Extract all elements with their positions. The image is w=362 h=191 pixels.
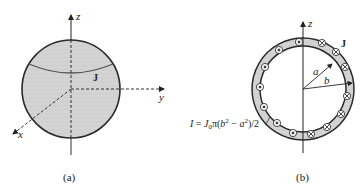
radius-a-label: a [313,65,319,77]
z-axis-label-b: z [307,17,313,29]
dot-in-circle-icon [289,129,296,136]
current-density-label: J [93,72,98,83]
y-axis-label: y [158,91,164,103]
z-axis-label: z [75,10,81,22]
dot-in-circle-icon [295,38,302,45]
cross-in-circle-icon [343,92,350,99]
caption-b: (b) [296,171,309,184]
formula-tail: )/2 [248,118,259,130]
current-density-label-b: J [341,38,346,49]
cross-in-circle-icon [337,110,344,117]
caption-a: (a) [63,171,76,184]
figure-b-ring-diagram: z a b J [189,17,354,184]
dot-in-circle-icon [260,103,267,110]
radius-b-label: b [324,74,330,86]
formula-minus: − [229,118,240,129]
formula-eq: = [193,118,204,129]
dot-in-circle-icon [273,119,280,126]
cross-in-circle-icon [341,63,348,70]
figure-a-sphere-diagram: z y x J (a) [13,10,164,184]
cross-in-circle-icon [318,39,325,46]
total-current-formula: I = J0π(b2 − a2)/2 [189,117,259,131]
dot-in-circle-icon [275,46,282,53]
dot-in-circle-icon [261,63,268,70]
figure-canvas: z y x J (a) z [0,0,362,191]
cross-in-circle-icon [307,130,314,137]
x-axis-label: x [17,128,23,140]
cross-in-circle-icon [323,123,330,130]
cross-in-circle-icon [332,48,339,55]
dot-in-circle-icon [256,83,263,90]
